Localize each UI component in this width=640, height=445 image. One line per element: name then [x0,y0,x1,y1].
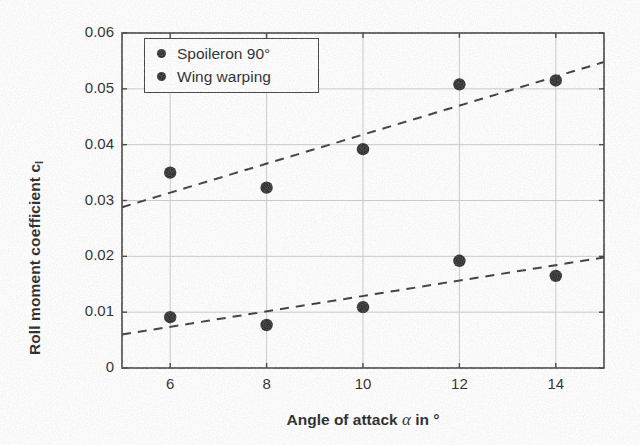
legend-label: Spoileron 90° [177,45,270,63]
legend-marker-icon [157,72,166,81]
legend-item: Spoileron 90° [151,42,310,65]
data-point [550,74,562,86]
plot-area [0,0,640,445]
data-point [164,311,176,323]
data-point [260,181,272,193]
data-point [453,255,465,267]
data-point [357,143,369,155]
data-point [260,319,272,331]
chart-legend: Spoileron 90°Wing warping [144,38,319,93]
data-point [164,166,176,178]
legend-label: Wing warping [177,68,271,86]
chart-figure: Roll moment coefficient cl Angle of atta… [0,0,640,445]
legend-marker-icon [157,49,166,58]
data-point [357,301,369,313]
legend-item: Wing warping [151,65,310,88]
data-point [550,270,562,282]
data-point [453,78,465,90]
